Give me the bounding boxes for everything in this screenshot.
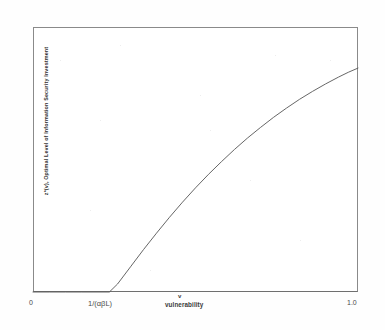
x-tick-label-threshold: 1/(αβL) [88,299,112,308]
scan-speckle [275,55,276,56]
scan-speckle [150,270,151,271]
y-axis-label: z*(v), Optimal Level of Information Secu… [43,0,49,246]
scan-speckle [210,130,211,131]
x-axis-variable-symbol: v [178,293,181,299]
x-tick-label-0: 0 [29,299,33,306]
scan-speckle [60,60,61,61]
scan-speckle [250,180,251,181]
x-axis-label: vulnerability [165,301,203,308]
curve-polyline [33,68,358,292]
scan-speckle [330,60,331,61]
scan-speckle [300,240,301,241]
scan-speckle [45,150,46,151]
scan-speckle [90,210,91,211]
scan-speckle [120,45,121,46]
scan-speckle [200,95,201,96]
chart-figure: z*(v), Optimal Level of Information Secu… [0,0,385,330]
scan-speckle [100,120,101,121]
curve-optimal-investment [33,27,358,292]
x-tick-label-1: 1.0 [347,299,357,306]
